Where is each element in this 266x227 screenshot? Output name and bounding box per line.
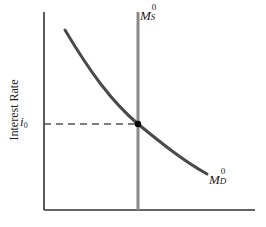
- md-base: M: [209, 172, 220, 187]
- equilibrium-rate-label: i0: [20, 114, 28, 130]
- md-subscript: D: [220, 176, 227, 186]
- ms-superscript: 0: [152, 2, 157, 12]
- money-supply-label: M0S: [140, 6, 159, 24]
- money-demand-curve: [65, 30, 207, 174]
- money-demand-label: M0D: [209, 170, 228, 188]
- money-market-diagram: [0, 0, 266, 227]
- equilibrium-point: [135, 121, 141, 127]
- y-axis-label: Interest Rate: [7, 80, 22, 141]
- i0-subscript: 0: [24, 121, 28, 130]
- ms-subscript: S: [151, 12, 156, 22]
- md-superscript: 0: [221, 166, 226, 176]
- ms-base: M: [140, 8, 151, 23]
